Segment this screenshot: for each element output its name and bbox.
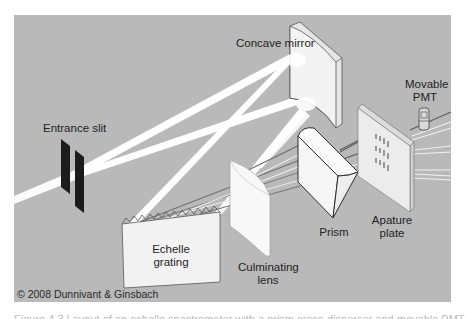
label-concave-mirror: Concave mirror: [236, 37, 315, 50]
label-movable-pmt-line1: Movable: [405, 78, 445, 91]
label-echelle-grating-line2: grating: [150, 256, 192, 269]
copyright-notice: © 2008 Dunnivant & Ginsbach: [17, 288, 158, 300]
incoming-beam: [14, 168, 80, 204]
label-culminating-lens-line2: lens: [238, 274, 298, 287]
label-apature-plate-line1: Apature: [370, 214, 414, 227]
aperture-plate: [358, 104, 414, 212]
label-prism: Prism: [318, 226, 350, 239]
label-culminating-lens-line1: Culminating: [238, 261, 298, 274]
figure-caption-cropped: Figure 4.3 Layout of an echelle spectrom…: [14, 313, 465, 319]
label-echelle-grating-line1: Echelle: [150, 243, 192, 256]
movable-pmt: [419, 108, 429, 130]
label-apature-plate-line2: plate: [370, 227, 414, 240]
label-movable-pmt-line2: PMT: [405, 91, 445, 104]
echelle-spectrometer-figure: Concave mirror Movable PMT Entrance slit…: [0, 0, 466, 319]
diagram-drawing: [0, 0, 466, 319]
label-entrance-slit: Entrance slit: [43, 122, 106, 135]
